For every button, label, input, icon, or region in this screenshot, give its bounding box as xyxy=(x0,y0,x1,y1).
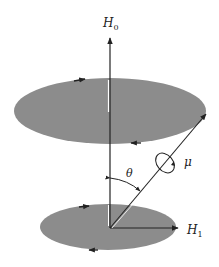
theta-arc xyxy=(110,178,140,191)
theta-label: θ xyxy=(126,167,133,180)
mu-label: μ xyxy=(184,155,192,169)
precession-diagram: H0 H1 θ μ xyxy=(0,0,219,267)
h0-label: H0 xyxy=(102,16,119,32)
h1-label: H1 xyxy=(186,223,203,239)
